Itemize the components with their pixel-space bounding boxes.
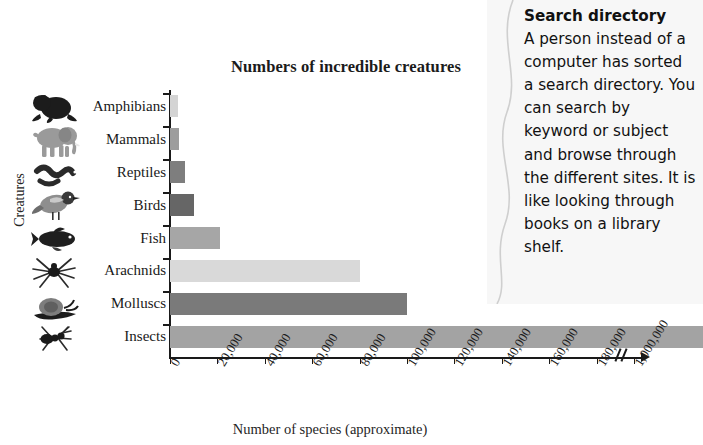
y-axis-tick: [163, 192, 170, 194]
bar-mammals: [170, 128, 179, 150]
x-axis-title: Number of species (approximate): [140, 421, 520, 438]
bar-row: [170, 260, 360, 282]
category-label: Amphibians: [6, 98, 166, 115]
bar-row: [170, 293, 407, 315]
category-label: Mammals: [6, 131, 166, 148]
bar-reptiles: [170, 161, 185, 183]
bar-row: [170, 227, 220, 249]
category-label: Insects: [6, 328, 166, 345]
panel-heading: Search directory: [524, 5, 696, 28]
y-axis-tick: [163, 291, 170, 293]
chart-title: Numbers of incredible creatures: [186, 57, 506, 77]
y-axis-tick: [163, 126, 170, 128]
bar-amphibians: [170, 95, 178, 117]
y-axis-tick: [163, 324, 170, 326]
panel-wave-divider: [487, 0, 527, 304]
y-axis-tick: [163, 93, 170, 95]
bar-arachnids: [170, 260, 360, 282]
bar-birds: [170, 194, 194, 216]
bar-molluscs: [170, 293, 407, 315]
y-axis-tick: [163, 225, 170, 227]
panel-body-text: A person instead of a computer has sorte…: [524, 28, 696, 259]
bar-row: [170, 128, 179, 150]
category-label-column: Amphibians Mammals Reptiles Birds Fish A…: [0, 0, 166, 445]
y-axis-tick: [163, 159, 170, 161]
category-label: Reptiles: [6, 164, 166, 181]
search-directory-panel: Search directory A person instead of a c…: [487, 0, 703, 304]
bar-row: [170, 95, 178, 117]
category-label: Birds: [6, 197, 166, 214]
category-label: Arachnids: [6, 262, 166, 279]
y-axis-tick: [163, 258, 170, 260]
bar-fish: [170, 227, 220, 249]
category-label: Molluscs: [6, 295, 166, 312]
bar-row: [170, 161, 185, 183]
bar-row: [170, 194, 194, 216]
panel-text-block: Search directory A person instead of a c…: [524, 5, 696, 259]
category-label: Fish: [6, 230, 166, 247]
